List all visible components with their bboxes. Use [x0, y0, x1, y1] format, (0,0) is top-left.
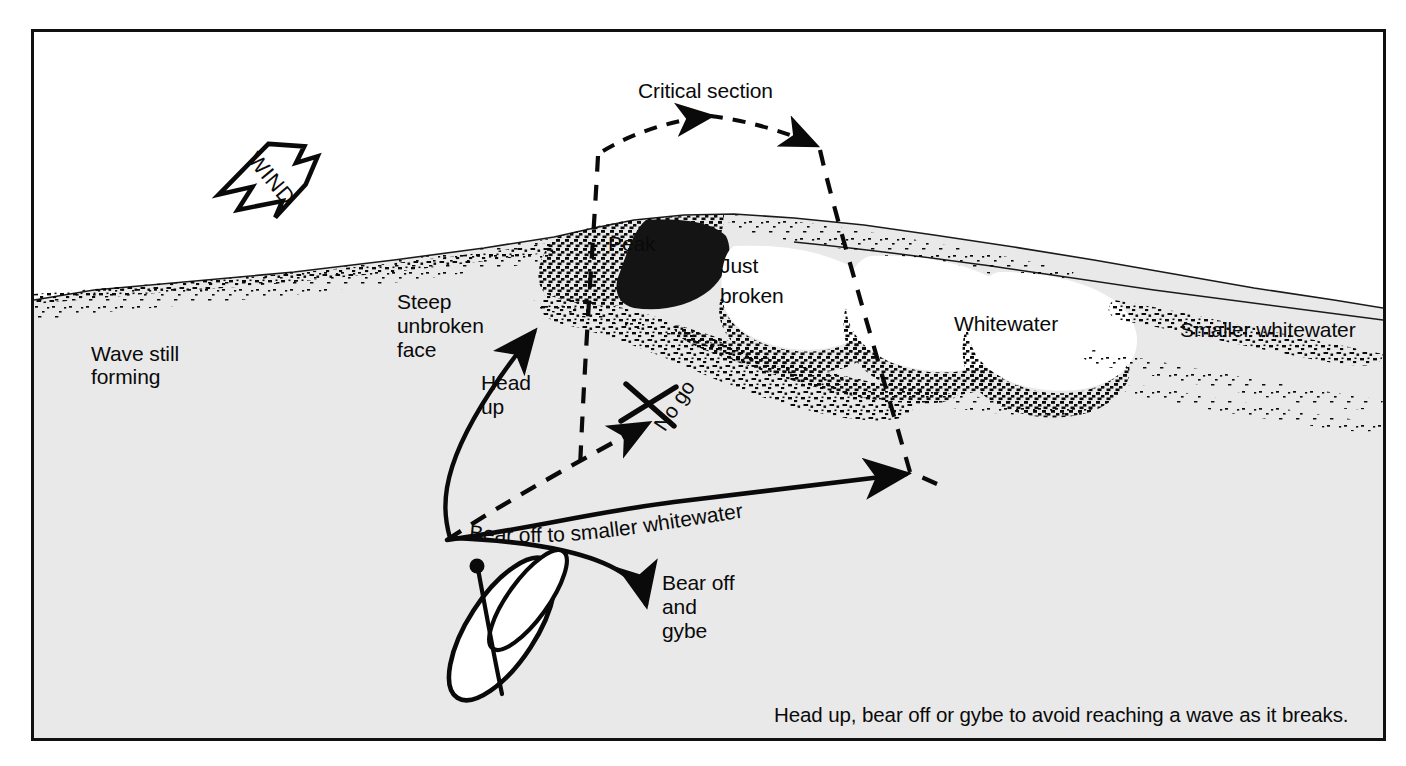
bear-off-and-gybe-label-line2: and [662, 595, 697, 619]
figure-caption: Head up, bear off or gybe to avoid reach… [774, 704, 1348, 727]
steep-unbroken-face-label-line1: Steep [397, 290, 451, 314]
critical-section-label: Critical section [638, 79, 773, 103]
steep-unbroken-face-label-line2: unbroken [397, 314, 484, 338]
mast-head-dot [470, 559, 485, 574]
wave-scene: WIND Bear off to smaller whitewater [34, 32, 1383, 738]
just-broken-label-line1: Just [720, 254, 758, 278]
peak-label: Peak [608, 232, 655, 256]
figure-stage: WIND Bear off to smaller whitewater Crit… [0, 0, 1406, 766]
head-up-label-line2: up [481, 395, 504, 419]
head-up-label-line1: Head [481, 371, 531, 395]
bear-off-and-gybe-label-line1: Bear off [662, 571, 734, 595]
just-broken-label-line2: broken [720, 284, 784, 308]
steep-unbroken-face-label-line3: face [397, 338, 436, 362]
wave-still-forming-label-line1: Wave still [91, 342, 179, 366]
whitewater-label: Whitewater [954, 312, 1058, 336]
wave-still-forming-label-line2: forming [91, 365, 160, 389]
smaller-whitewater-label: Smaller whitewater [1180, 318, 1356, 342]
diagram-frame: WIND Bear off to smaller whitewater Crit… [31, 29, 1386, 741]
bear-off-and-gybe-label-line3: gybe [662, 619, 707, 643]
